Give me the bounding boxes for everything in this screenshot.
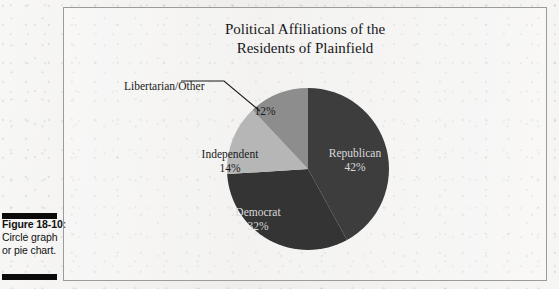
pie-name-independent: Independent: [182, 147, 278, 161]
pie-label-democrat: Democrat 32%: [215, 205, 301, 233]
pie-percent-republican: 42%: [312, 160, 398, 174]
caption-rule-bottom: [2, 274, 57, 280]
pie-label-republican: Republican 42%: [312, 146, 398, 174]
pie-percent-democrat: 32%: [215, 219, 301, 233]
pie-percent-libertarian-other: 12%: [242, 104, 288, 118]
pie-name-democrat: Democrat: [215, 205, 301, 219]
pie-percent-independent: 14%: [182, 161, 278, 175]
figure-caption-label: Figure 18-10:: [2, 218, 60, 231]
figure-caption: Figure 18-10: Circle graph or pie chart.: [2, 212, 60, 257]
pie-label-libertarian-other-name: Libertarian/Other: [124, 80, 204, 92]
pie-chart: Libertarian/Other 12% Republican 42% Dem…: [64, 8, 548, 282]
pie-label-libertarian-other-percent: 12%: [242, 104, 288, 118]
figure-frame: Political Affiliations of the Residents …: [63, 7, 547, 281]
pie-chart-svg: [64, 8, 548, 282]
figure-caption-line-2: or pie chart.: [2, 244, 60, 257]
figure-caption-line-1: Circle graph: [2, 231, 60, 244]
pie-label-independent: Independent 14%: [182, 147, 278, 175]
pie-name-republican: Republican: [312, 146, 398, 160]
